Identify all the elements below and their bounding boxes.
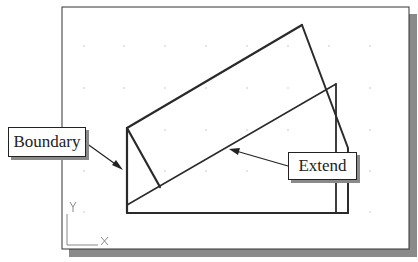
boundary-callout: Boundary (8, 127, 86, 157)
extend-callout: Extend (288, 152, 357, 180)
boundary-callout-text: Boundary (13, 132, 80, 152)
extend-callout-text: Extend (298, 156, 346, 176)
